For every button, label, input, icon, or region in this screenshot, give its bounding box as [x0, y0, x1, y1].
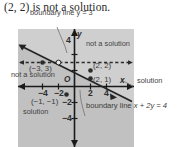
annotation-solution-bottom: solution — [23, 108, 48, 115]
x-axis-label: x — [120, 77, 125, 85]
figure-container: (2, 2) is not a solution. — [0, 0, 179, 147]
x-tick-label-neg4: −4 — [38, 89, 48, 98]
annotation-boundary-x2y4: boundary line x + 2y = 4 — [86, 102, 167, 110]
x-tick-label-4: 4 — [104, 89, 109, 98]
origin-label: O — [64, 76, 70, 84]
annotation-boundary-y3: boundary line y = 3 — [30, 9, 93, 16]
x-tick-label-2: 2 — [88, 89, 93, 98]
y-tick-label-4: 4 — [66, 36, 71, 45]
point-label-2-2: (2, 2) — [93, 62, 111, 70]
annotation-boundary-x2y4-prefix: boundary line — [86, 101, 134, 110]
coordinate-plane: boundary line y = 3 not a solution not a… — [0, 18, 179, 147]
y-tick-label-neg2: −2 — [62, 98, 72, 107]
y-axis-label: y — [77, 31, 82, 39]
annotation-not-a-solution-top: not a solution — [86, 40, 130, 47]
annotation-boundary-x2y4-equation: x + 2y = 4 — [134, 101, 167, 110]
annotation-solution-right: solution — [137, 77, 162, 84]
y-tick-label-neg4: −4 — [62, 114, 72, 123]
point-label-neg3-3: (−3, 3) — [29, 65, 52, 73]
point-open-marker — [56, 60, 61, 65]
point-label-neg1-neg1: (−1, −1) — [31, 98, 58, 106]
point-label-2-1: (2, 1) — [93, 76, 111, 84]
